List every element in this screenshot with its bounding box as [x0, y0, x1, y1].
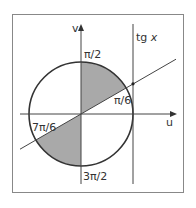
label-7pi-over-6: 7π/6: [32, 121, 56, 134]
tangent-unit-circle-diagram: v u tg x π/2 π/6 7π/6 3π/2: [0, 0, 196, 208]
label-pi-over-6: π/6: [114, 94, 131, 107]
u-axis-label: u: [166, 116, 173, 129]
intersection-point: [131, 82, 134, 85]
label-pi-over-2: π/2: [84, 48, 101, 61]
tangent-label: tg x: [136, 31, 158, 44]
label-3pi-over-2: 3π/2: [83, 170, 107, 183]
v-axis-label: v: [72, 22, 79, 35]
